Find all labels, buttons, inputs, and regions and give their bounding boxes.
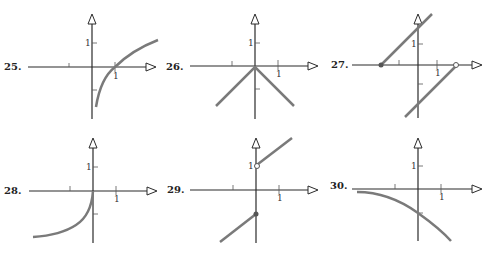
graph-29: 29. 1 1: [167, 138, 308, 243]
y-tick-label: 1: [86, 162, 92, 172]
graphs-figure: 25. 1 1 26. 1 1 27. 1 1: [0, 0, 496, 261]
graph-label: 30.: [330, 180, 347, 191]
lower-line: [220, 214, 256, 242]
y-tick-label: 1: [248, 38, 254, 48]
y-tick-label: 1: [248, 161, 254, 171]
graph-label: 26.: [166, 61, 183, 72]
x-tick-label: 1: [276, 69, 282, 79]
curve: [357, 192, 451, 241]
open-dot: [255, 164, 260, 169]
x-tick-label: 1: [277, 193, 283, 203]
y-tick-label: 1: [411, 161, 417, 171]
curve: [96, 40, 158, 107]
graph-label: 28.: [4, 185, 21, 196]
filled-dot: [254, 212, 259, 217]
x-tick-label: 1: [114, 194, 120, 204]
graph-label: 29.: [167, 184, 184, 195]
upper-line: [258, 138, 292, 164]
graph-label: 27.: [331, 59, 348, 70]
curve: [33, 191, 93, 237]
graph-28: 28. 1 1: [4, 148, 147, 243]
graph-30: 30. 1 1: [330, 148, 472, 241]
graph-label: 25.: [4, 61, 21, 72]
graph-26: 26. 1 1: [166, 24, 308, 119]
open-dot: [454, 63, 459, 68]
x-tick-label: 1: [113, 71, 119, 81]
upper-line: [381, 14, 432, 65]
y-tick-label: 1: [85, 38, 91, 48]
graph-27: 27. 1 1: [331, 14, 472, 118]
filled-dot: [379, 63, 384, 68]
x-tick-label: 1: [439, 192, 445, 202]
x-tick-label: 1: [435, 68, 441, 78]
lower-line: [405, 67, 455, 117]
graph-25: 25. 1 1: [4, 24, 158, 119]
y-tick-label: 1: [411, 39, 417, 49]
